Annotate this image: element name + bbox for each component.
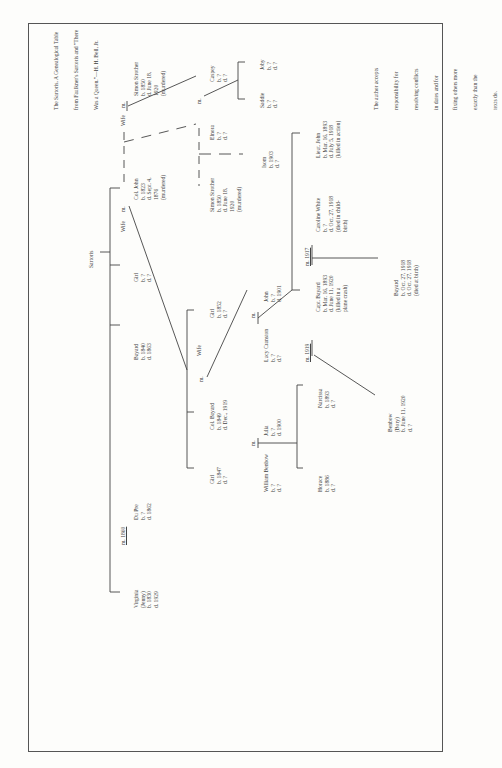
title-block: The Sartoris, A Genealogical Table from … bbox=[40, 30, 106, 110]
person-simon-strother: Simon Strotherb. 1850d. June 18,1920(mur… bbox=[120, 62, 173, 96]
person-girl-1852: Girlb. 1852d. ? bbox=[196, 301, 236, 318]
person-simon-strother-2: Simon Strotherb. 1850d. June 18,1920(mur… bbox=[196, 178, 249, 212]
marriage-m-3: m. bbox=[196, 98, 203, 104]
person-caspey: Caspeyb. ?d. ? bbox=[196, 66, 236, 82]
person-lieut-john: Lieut. Johnb. Mar. 16, 1893d. July 5, 19… bbox=[302, 121, 348, 158]
title-line-1: The Sartoris, A Genealogical Table bbox=[53, 30, 60, 110]
title-line-2: from Faulkner's Sartoris and "There bbox=[73, 30, 80, 110]
author-note: The author accepts responsibility for re… bbox=[360, 68, 502, 110]
title-line-3: Was a Queen."—H. H. Bell, Jr. bbox=[93, 30, 100, 110]
marriage-m-2: m. bbox=[120, 102, 127, 108]
person-girl: Girlb. ?d. ? bbox=[120, 273, 160, 282]
marriage-m-5: m. bbox=[250, 312, 257, 318]
person-john-1901: Johnb. ?d. 1901 bbox=[250, 285, 290, 302]
person-col-john: Col. Johnb. 1823d. Sept. 4,1876(murdered… bbox=[120, 175, 173, 200]
person-benbow: Benbow(Bory)b. June 11, 1920d. ? bbox=[374, 395, 420, 432]
person-lucy-cranston: Lucy Cranstonb. ?d.? bbox=[250, 329, 290, 362]
person-narcissa: Narcissab. 1893d. ? bbox=[304, 389, 344, 408]
person-girl-1847: Girlb. 1847d. ? bbox=[196, 467, 236, 484]
marriage-m-6: m. bbox=[250, 440, 257, 446]
person-wife-3: Wife bbox=[196, 345, 203, 356]
person-virginia: Virginia(Jenny)b. 1830d. 1929 bbox=[120, 590, 166, 608]
person-bayard-1918: Bayardb. Oct. 27, 1918d. Oct. 27, 1918(d… bbox=[380, 260, 426, 296]
person-bayard-1840: Bayardb. 1840d. 1863 bbox=[120, 343, 160, 360]
marriage-1919: m. 1919 bbox=[304, 344, 311, 362]
person-caroline-white: Caroline Whiteb. ?d. Oct. 27, 1918(died … bbox=[302, 196, 355, 232]
marriage-m-4: m. bbox=[198, 376, 205, 382]
person-horace: Horaceb. 1886d. ? bbox=[304, 475, 344, 492]
person-elnora: Elnorab. ?d. ? bbox=[196, 125, 236, 140]
person-julia: Juliab. ?d. 1900 bbox=[250, 419, 290, 436]
person-capt-bayard: Capt. Bayardb. Mar. 16, 1893d. June 11, … bbox=[302, 275, 355, 312]
person-william-benbow: William Benbowb. ?d. ? bbox=[250, 454, 290, 492]
person-isom: Isomb. 1903d. ? bbox=[248, 151, 288, 168]
person-dupre: Du Preb. ?d. 1862 bbox=[120, 503, 160, 520]
marriage-1917: m. 1917 bbox=[304, 248, 311, 266]
marriage-m: m. bbox=[120, 206, 127, 212]
person-wife-2: Wife bbox=[120, 115, 127, 126]
person-col-bayard: Col. Bayardb. 1849d. Dec., 1919 bbox=[196, 400, 236, 430]
person-wife: Wife bbox=[120, 221, 127, 232]
person-saddie: Saddieb. ?d. ? bbox=[246, 93, 286, 108]
person-joby: Jobyb. ?d. ? bbox=[246, 59, 286, 70]
root-sartoris: Sartoris bbox=[88, 251, 95, 268]
marriage-1860: m. 1860 bbox=[120, 527, 127, 545]
